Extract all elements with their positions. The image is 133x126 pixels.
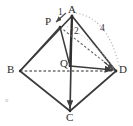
geometry-figure: A P B Q D C 1 2 4 ˚ — [0, 0, 133, 126]
vertex-label-d: D — [119, 64, 127, 75]
vertex-label-b: B — [7, 64, 14, 75]
measure-label-pa: 1 — [58, 8, 63, 18]
vertex-label-c: C — [66, 112, 73, 123]
vertex-dot-Q — [69, 65, 72, 68]
vertex-dot-D — [115, 70, 118, 73]
dotted-arc-A-D — [76, 13, 119, 66]
vertex-label-a: A — [68, 4, 76, 15]
vertex-dot-P — [59, 26, 62, 29]
edge-B-C — [20, 71, 70, 111]
segment-P-B — [20, 27, 60, 71]
vertex-dot-B — [19, 70, 21, 72]
corner-partial-glyph: ˚ — [1, 100, 9, 110]
segment-Q-D — [70, 66, 113, 70]
vertex-label-p: P — [45, 16, 51, 27]
vertex-dot-A — [71, 15, 74, 18]
vertex-label-q: Q — [60, 58, 68, 69]
measure-label-aq: 2 — [74, 27, 79, 37]
measure-label-ad: 4 — [100, 24, 105, 34]
edge-C-D — [70, 71, 116, 111]
edge-A-D — [72, 16, 116, 71]
